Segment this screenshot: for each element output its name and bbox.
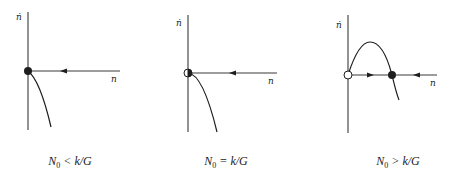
panel-2: ṅ n [176, 15, 277, 132]
arrow-left-icon [229, 71, 236, 76]
x-axis-label: n [111, 74, 117, 84]
arrow-left-icon [60, 69, 67, 74]
phase-curve [348, 42, 399, 100]
panel-1: ṅ n [16, 12, 120, 130]
caption-relation: > k/G [388, 154, 419, 168]
phase-diagrams: ṅ n ṅ n ṅ n [0, 0, 453, 176]
panel-3: ṅ n [336, 15, 437, 133]
caption-relation: = k/G [216, 154, 247, 168]
x-axis-label: n [268, 76, 274, 86]
caption-panel-1: N0 < k/G [10, 154, 130, 170]
caption-relation: < k/G [60, 154, 91, 168]
phase-curve [28, 71, 51, 127]
arrow-right-icon [367, 73, 374, 78]
y-axis-label: ṅ [336, 20, 342, 30]
y-axis-label: ṅ [176, 18, 182, 28]
stable-equilibrium-icon [388, 71, 396, 79]
caption-panel-3: N0 > k/G [338, 154, 453, 170]
arrow-left-icon [413, 73, 420, 78]
phase-curve [188, 73, 217, 132]
unstable-equilibrium-icon [344, 71, 352, 79]
caption-panel-2: N0 = k/G [166, 154, 286, 170]
x-axis-label: n [430, 78, 436, 88]
stable-equilibrium-icon [24, 67, 32, 75]
y-axis-label: ṅ [16, 12, 22, 22]
